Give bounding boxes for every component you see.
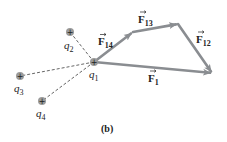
label-q3: q3 [14,82,24,97]
dashed-line-q1-q4 [42,62,94,101]
charge-q2: + [66,28,74,37]
label-f12: F12 [196,31,211,48]
plus-sign-icon: + [39,97,46,106]
svg-text:F14: F14 [98,35,113,50]
dashed-line-q1-q3 [20,62,94,76]
label-f13: F13 [138,11,153,28]
label-f1: F1 [148,70,159,87]
label-q1: q1 [89,68,99,83]
figure-caption: (b) [101,123,113,135]
charge-q1: + [90,58,98,67]
dashed-connector-lines [20,32,94,101]
svg-text:F12: F12 [196,33,211,48]
svg-text:F13: F13 [138,13,153,28]
label-f14: F14 [98,33,113,50]
plus-sign-icon: + [67,28,74,37]
force-diagram: + + + + q2 q1 q3 q4 F14 F13 F12 F1 (b) [0,0,227,142]
plus-sign-icon: + [17,72,24,81]
plus-sign-icon: + [91,58,98,67]
label-q4: q4 [36,107,46,122]
svg-text:F1: F1 [148,72,159,87]
charge-q3: + [16,72,24,81]
charge-q4: + [38,97,46,106]
label-q2: q2 [64,39,74,54]
vector-f13 [133,24,176,32]
vector-f12 [178,24,211,72]
